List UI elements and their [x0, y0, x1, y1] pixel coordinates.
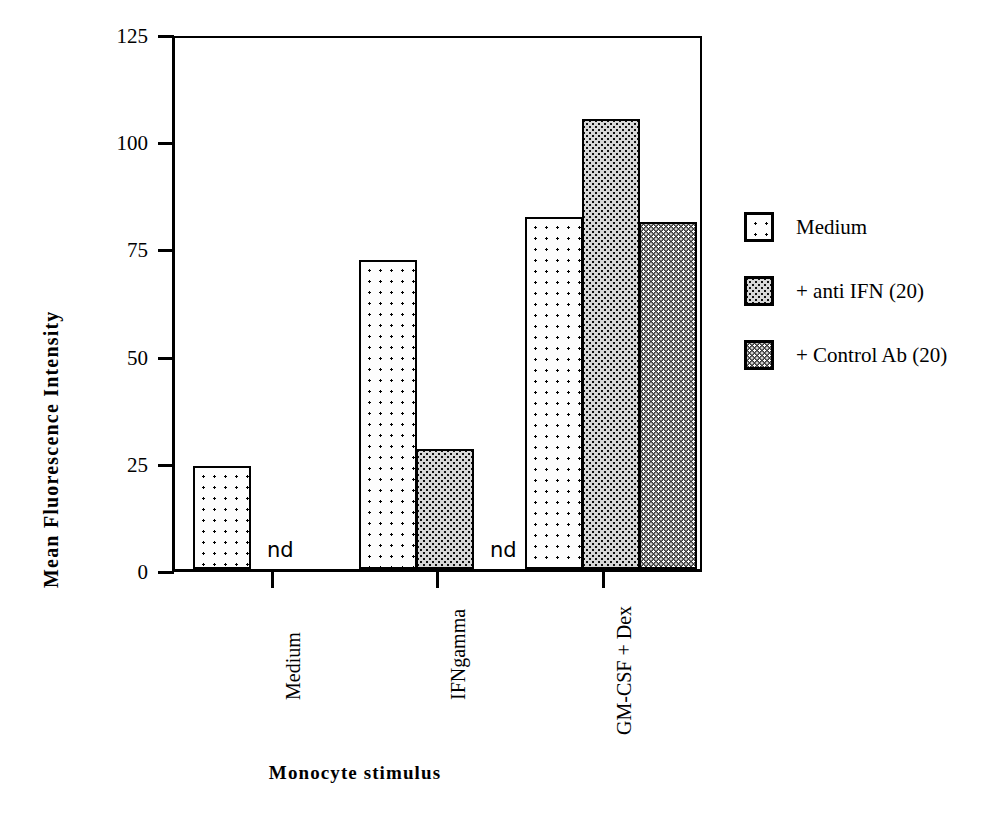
y-tick-label-50: 50 — [48, 348, 148, 369]
legend-item-anti-ifn: + anti IFN (20) — [744, 276, 1000, 340]
y-tick-label-0: 0 — [48, 562, 148, 583]
y-tick-label-25: 25 — [48, 455, 148, 476]
legend-label-anti-ifn: + anti IFN (20) — [796, 277, 924, 305]
y-axis-title-text: Mean Fluorescence Intensity — [40, 168, 63, 588]
bar-gmcsf-control-ab — [639, 222, 697, 569]
y-axis-title: Mean Fluorescence Intensity — [18, 0, 41, 170]
y-tick-label-100: 100 — [48, 133, 148, 154]
legend-swatch-anti-ifn-icon — [744, 276, 774, 306]
y-tick-label-100-wrap: 100 — [44, 133, 148, 155]
y-tick-label-25-wrap: 25 — [44, 455, 148, 477]
x-tick-mark-gmcsf-dex — [602, 572, 605, 588]
x-tick-label-gmcsf-dex: GM-CSF + Dex — [613, 606, 636, 735]
x-axis-title: Monocyte stimulus — [0, 762, 710, 784]
y-tick-label-125: 125 — [48, 26, 148, 47]
bar-gmcsf-medium — [525, 217, 583, 569]
y-tick-label-75-wrap: 75 — [44, 240, 148, 262]
nd-annotation-1: nd — [267, 540, 294, 561]
bar-chart-figure: Mean Fluorescence Intensity 125 100 75 5… — [0, 0, 1006, 826]
nd-annotation-2: nd — [490, 540, 517, 561]
bar-ifngamma-anti-ifn — [416, 449, 474, 569]
y-tick-label-0-wrap: 0 — [44, 562, 148, 584]
x-tick-label-ifngamma: IFNgamma — [447, 609, 470, 700]
legend-label-medium: Medium — [796, 213, 867, 241]
bar-medium-medium — [193, 466, 251, 569]
y-tick-label-125-wrap: 125 — [44, 26, 148, 48]
bar-gmcsf-anti-ifn — [582, 119, 640, 569]
legend-swatch-control-ab-icon — [744, 340, 774, 370]
legend-item-control-ab: + Control Ab (20) — [744, 340, 1000, 404]
legend-swatch-medium-icon — [744, 212, 774, 242]
y-tick-label-75: 75 — [48, 240, 148, 261]
y-tick-label-50-wrap: 50 — [44, 348, 148, 370]
legend-label-control-ab: + Control Ab (20) — [796, 341, 947, 369]
legend-item-medium: Medium — [744, 212, 1000, 276]
x-tick-label-medium: Medium — [282, 632, 305, 700]
plot-area: nd nd — [172, 36, 702, 572]
bar-ifngamma-medium — [359, 260, 417, 569]
legend: Medium + anti IFN (20) + Control Ab (20) — [744, 212, 1000, 404]
x-tick-mark-medium — [271, 572, 274, 588]
x-tick-mark-ifngamma — [436, 572, 439, 588]
